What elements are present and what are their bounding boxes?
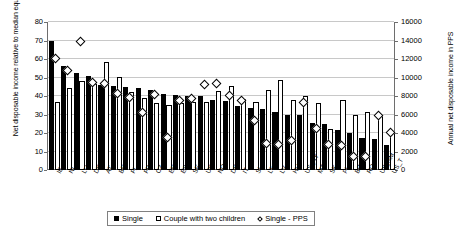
bar-group	[135, 22, 147, 170]
bar-couple-two-children	[129, 92, 134, 170]
y-axis-right-tick-label: 16000	[401, 17, 431, 26]
bar-single	[148, 90, 153, 170]
bar-group	[123, 22, 135, 170]
y-axis-right-tickmark	[395, 96, 398, 97]
bar-couple-two-children	[266, 90, 271, 170]
bar-group	[60, 22, 72, 170]
bar-couple-two-children	[340, 100, 345, 170]
y-axis-left-tick-label: 40	[17, 91, 43, 100]
legend-item-single-pps: Single - PPS	[258, 214, 308, 223]
chart-container: Net disposable income relative to median…	[0, 0, 459, 238]
bar-group	[371, 22, 383, 170]
bar-couple-two-children	[179, 103, 184, 170]
bar-group	[321, 22, 333, 170]
bar-group	[359, 22, 371, 170]
bar-group	[197, 22, 209, 170]
bar-group	[346, 22, 358, 170]
y-axis-left-tickmark	[44, 152, 47, 153]
y-axis-right-title: Annual net disposable income in PPS	[447, 23, 456, 153]
bar-group	[110, 22, 122, 170]
bar-group	[185, 22, 197, 170]
marker-single-pps	[212, 79, 222, 89]
bar-single	[210, 100, 215, 170]
bar-single	[111, 86, 116, 170]
bar-single	[74, 73, 79, 170]
plot-area	[47, 22, 395, 170]
y-axis-right-tick-label: 0	[401, 165, 431, 174]
bar-single	[198, 96, 203, 170]
bar-couple-two-children	[353, 115, 358, 170]
y-axis-left-tick-label: 70	[17, 36, 43, 45]
bar-couple-two-children	[154, 103, 159, 170]
y-axis-left-tickmark	[44, 41, 47, 42]
bar-couple-two-children	[303, 96, 308, 170]
bar-group	[73, 22, 85, 170]
bar-single	[61, 66, 66, 170]
bar-group	[247, 22, 259, 170]
legend-item-single: Single	[114, 214, 143, 223]
bar-group	[309, 22, 321, 170]
chart-legend: Single Couple with two children Single -…	[107, 211, 315, 226]
bar-couple-two-children	[92, 84, 97, 170]
bar-couple-two-children	[55, 102, 60, 170]
bar-single	[98, 85, 103, 170]
bar-group	[272, 22, 284, 170]
bar-couple-two-children	[191, 102, 196, 170]
bar-group	[98, 22, 110, 170]
bar-couple-two-children	[216, 91, 221, 170]
bar-group	[234, 22, 246, 170]
legend-swatch-single-pps-icon	[257, 216, 263, 222]
bar-single	[161, 94, 166, 170]
y-axis-right-tickmark	[395, 78, 398, 79]
y-axis-right-title-text: Annual net disposable income in PPS	[447, 32, 454, 145]
y-axis-right-tickmark	[395, 59, 398, 60]
y-axis-left-tickmark	[44, 22, 47, 23]
bar-series-group	[48, 22, 394, 170]
y-axis-left-tickmark	[44, 59, 47, 60]
y-axis-left-tickmark	[44, 78, 47, 79]
bar-group	[160, 22, 172, 170]
y-axis-left-tick-label: 30	[17, 110, 43, 119]
y-axis-right-tick-label: 4000	[401, 128, 431, 137]
x-axis-category-labels: IENLLUDKATBEFIFRCZEEESSEUKNODEITSILTLVHU…	[47, 171, 395, 201]
bar-single	[136, 88, 141, 170]
bar-single	[223, 101, 228, 170]
y-axis-left-tick-label: 50	[17, 73, 43, 82]
y-axis-left-tick-label: 60	[17, 54, 43, 63]
bar-single	[235, 106, 240, 170]
bar-group	[48, 22, 60, 170]
y-axis-right-tick-label: 8000	[401, 91, 431, 100]
legend-label-single-pps: Single - PPS	[265, 214, 308, 223]
y-axis-right-tickmark	[395, 152, 398, 153]
bar-single	[297, 115, 302, 170]
bar-group	[210, 22, 222, 170]
bar-couple-two-children	[204, 102, 209, 170]
bar-group	[297, 22, 309, 170]
legend-label-couple: Couple with two children	[164, 214, 245, 223]
y-axis-left-tickmark	[44, 133, 47, 134]
x-axis-tick-label: AT	[104, 164, 114, 174]
bar-group	[147, 22, 159, 170]
y-axis-left-tickmark	[44, 96, 47, 97]
y-axis-left-tickmark	[44, 115, 47, 116]
bar-single	[347, 133, 352, 170]
bar-single	[86, 76, 91, 170]
legend-swatch-single-icon	[114, 216, 119, 221]
y-axis-right-tick-label: 10000	[401, 73, 431, 82]
y-axis-right-tickmark	[395, 133, 398, 134]
y-axis-right-tickmark	[395, 115, 398, 116]
bar-single	[185, 96, 190, 170]
y-axis-right-tick-label: 6000	[401, 110, 431, 119]
legend-swatch-couple-icon	[156, 216, 161, 221]
bar-couple-two-children	[278, 80, 283, 170]
y-axis-left-tick-label: 0	[17, 165, 43, 174]
y-axis-right-tick-label: 14000	[401, 36, 431, 45]
y-axis-left-tick-label: 10	[17, 147, 43, 156]
legend-label-single: Single	[122, 214, 143, 223]
bar-group	[222, 22, 234, 170]
bar-group	[172, 22, 184, 170]
bar-single	[173, 95, 178, 170]
legend-item-couple: Couple with two children	[156, 214, 245, 223]
bar-group	[334, 22, 346, 170]
bar-couple-two-children	[67, 88, 72, 170]
